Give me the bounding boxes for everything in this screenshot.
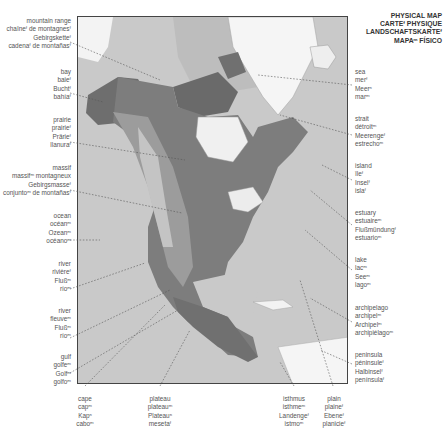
relief-map-graphic: [78, 17, 348, 384]
north-america-physical-map: [77, 16, 348, 384]
label-estuary: estuary estuaireᵐ Flußmündungᶠ estuarioᵐ: [355, 209, 396, 242]
title-fr: CARTEᶠ PHYSIQUE: [366, 20, 442, 28]
label-archipelago: archipelago archipelᵐ Archipelᵐ archipié…: [355, 304, 393, 337]
label-sea: sea merᶠ Meerⁿ marᵐ: [355, 68, 372, 101]
label-massif: massif massifᵐ montagneux Gebirgsmasseᶠ …: [3, 164, 71, 197]
label-prairie: prairie prairieᶠ Prärieᶠ llanuraᶠ: [50, 116, 71, 149]
label-bay: bay baieᶠ Buchtᶠ bahíaᶠ: [53, 68, 71, 101]
label-peninsula: peninsula péninsuleᶠ Halbinselᶠ penínsul…: [355, 351, 384, 384]
label-river-fleuve: river fleuveᵐ Flußᵐ ríoᵐ: [50, 307, 71, 340]
label-ocean: ocean océanᵐ Ozeanᵐ océanoᵐ: [46, 212, 71, 245]
label-plain: plain plaineᶠ Ebeneᶠ planicieᶠ: [314, 395, 354, 428]
title-de: LANDSCHAFTSKARTEᶠ: [366, 28, 442, 36]
label-isthmus: isthmus isthmeᵐ Landengeᶠ istmoᵐ: [274, 395, 314, 428]
label-island: island îleᶠ Inselᶠ islaᶠ: [355, 162, 372, 195]
label-cape: cape capᵐ Kapⁿ caboᵐ: [66, 395, 104, 428]
label-plateau: plateau plateauᵐ Plateauⁿ mesetaᶠ: [140, 395, 180, 428]
label-mountain-range: mountain range chaîneᶠ de montagnesᶠ Geb…: [7, 17, 71, 50]
title-es: MAPAᵐ FÍSICO: [366, 37, 442, 45]
map-title: PHYSICAL MAP CARTEᶠ PHYSIQUE LANDSCHAFTS…: [366, 12, 442, 45]
label-strait: strait détroitᵐ Meerengeᶠ estrechoᵐ: [355, 115, 385, 148]
title-en: PHYSICAL MAP: [366, 12, 442, 20]
label-river-riviere: river rivièreᶠ Flußᵐ ríoᵐ: [52, 260, 71, 293]
label-lake: lake lacᵐ Seeᵐ lagoᵐ: [355, 256, 371, 289]
label-gulf: gulf golfeᵐ Golfᵐ golfoᵐ: [53, 353, 71, 386]
